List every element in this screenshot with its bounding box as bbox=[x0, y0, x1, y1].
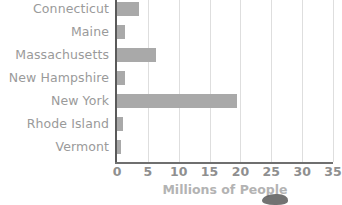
bar-rhode-island bbox=[117, 117, 123, 131]
x-tick-35: 35 bbox=[324, 165, 341, 179]
gridline-35 bbox=[333, 0, 334, 162]
gridline-5 bbox=[148, 0, 149, 162]
y-axis-line bbox=[115, 0, 117, 163]
x-tick-30: 30 bbox=[293, 165, 310, 179]
gridline-30 bbox=[302, 0, 303, 162]
category-label-maine: Maine bbox=[0, 25, 109, 38]
bar-new-york bbox=[117, 94, 237, 108]
bar-massachusetts bbox=[117, 48, 156, 62]
x-tick-15: 15 bbox=[201, 165, 218, 179]
category-label-rhode-island: Rhode Island bbox=[0, 117, 109, 130]
plot-area bbox=[117, 0, 333, 162]
gridline-25 bbox=[271, 0, 272, 162]
x-tick-25: 25 bbox=[263, 165, 280, 179]
category-label-vermont: Vermont bbox=[0, 140, 109, 153]
gridline-10 bbox=[179, 0, 180, 162]
x-axis-title: Millions of People bbox=[117, 182, 333, 197]
bar-maine bbox=[117, 25, 125, 39]
category-label-new-hampshire: New Hampshire bbox=[0, 71, 109, 84]
x-tick-10: 10 bbox=[170, 165, 187, 179]
bar-new-hampshire bbox=[117, 71, 125, 85]
x-tick-5: 5 bbox=[143, 165, 152, 179]
x-axis-tick-labels: 0 5 10 15 20 25 30 35 bbox=[117, 165, 339, 181]
category-label-massachusetts: Massachusetts bbox=[0, 48, 109, 61]
gridline-20 bbox=[240, 0, 241, 162]
bar-connecticut bbox=[117, 2, 139, 16]
category-label-connecticut: Connecticut bbox=[0, 2, 109, 15]
bar-vermont bbox=[117, 140, 121, 154]
x-tick-20: 20 bbox=[232, 165, 249, 179]
scan-artifact-smudge bbox=[262, 194, 288, 205]
x-tick-0: 0 bbox=[113, 165, 122, 179]
category-label-new-york: New York bbox=[0, 94, 109, 107]
category-axis-labels: Connecticut Maine Massachusetts New Hamp… bbox=[0, 0, 113, 162]
gridline-15 bbox=[210, 0, 211, 162]
